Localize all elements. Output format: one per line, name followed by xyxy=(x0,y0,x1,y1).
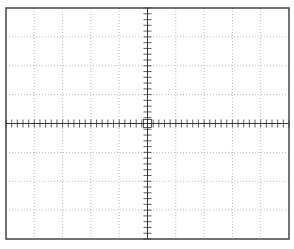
oscilloscope-graticule xyxy=(0,0,294,249)
